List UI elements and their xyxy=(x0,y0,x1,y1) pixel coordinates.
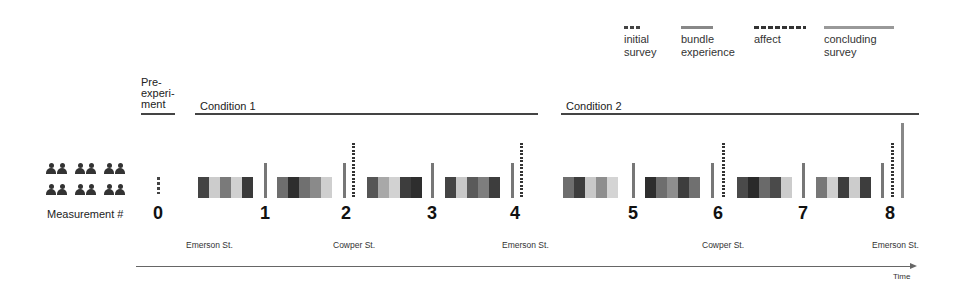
condition-1-line xyxy=(195,113,538,115)
measurement-number: 7 xyxy=(798,203,808,224)
time-arrow-icon xyxy=(910,263,917,269)
bundle-group-3 xyxy=(367,177,422,198)
bundle-experience-swatch xyxy=(681,26,713,29)
bundle-block xyxy=(400,177,411,198)
bundle-block xyxy=(378,177,389,198)
bundle-block xyxy=(827,177,838,198)
street-label: Emerson St. xyxy=(186,240,233,250)
bundle-block xyxy=(748,177,759,198)
bundle-block xyxy=(209,177,220,198)
bundle-group-4 xyxy=(445,177,500,198)
affect-swatch xyxy=(754,26,806,29)
phase-pre-experiment: Pre- experi- ment xyxy=(141,77,175,110)
person-icon xyxy=(46,163,56,174)
measurement-bar xyxy=(431,163,434,198)
bundle-group-5 xyxy=(563,177,618,198)
initial-survey-marker xyxy=(157,177,160,194)
bundle-group-2 xyxy=(277,177,332,198)
affect-bar xyxy=(520,143,523,198)
legend-affect: affect xyxy=(754,26,806,46)
measurement-number: 0 xyxy=(153,203,163,224)
time-label: Time xyxy=(893,272,910,281)
bundle-block xyxy=(689,177,700,198)
bundle-block xyxy=(299,177,310,198)
bundle-block xyxy=(277,177,288,198)
legend-label: survey xyxy=(624,46,656,59)
measurement-bar xyxy=(632,163,635,198)
bundle-block xyxy=(667,177,678,198)
bundle-group-8 xyxy=(816,177,871,198)
bundle-block xyxy=(456,177,467,198)
person-icon xyxy=(86,184,96,195)
bundle-block xyxy=(563,177,574,198)
bundle-block xyxy=(838,177,849,198)
bundle-block xyxy=(310,177,321,198)
legend-label: survey xyxy=(824,46,894,59)
legend-label: experience xyxy=(681,46,735,59)
bundle-block xyxy=(574,177,585,198)
measurement-bar xyxy=(511,163,514,198)
time-axis xyxy=(136,266,912,267)
bundle-block xyxy=(478,177,489,198)
condition-2-line xyxy=(561,113,919,115)
affect-bar xyxy=(891,143,894,198)
concluding-survey-swatch xyxy=(824,26,894,29)
bundle-block xyxy=(656,177,667,198)
concluding-survey-bar xyxy=(901,123,904,198)
pre-experiment-line xyxy=(141,113,175,115)
bundle-block xyxy=(242,177,253,198)
bundle-block xyxy=(759,177,770,198)
person-icon xyxy=(115,184,125,195)
person-icon xyxy=(46,184,56,195)
person-icon xyxy=(75,163,85,174)
measurement-number: 8 xyxy=(885,203,895,224)
bundle-block xyxy=(816,177,827,198)
bundle-block xyxy=(585,177,596,198)
legend-label: bundle xyxy=(681,33,735,46)
street-label: Emerson St. xyxy=(502,240,549,250)
bundle-group-6 xyxy=(645,177,700,198)
bundle-block xyxy=(596,177,607,198)
legend-label: affect xyxy=(754,33,806,46)
bundle-group-7 xyxy=(737,177,792,198)
bundle-block xyxy=(607,177,618,198)
bundle-block xyxy=(489,177,500,198)
bundle-block xyxy=(645,177,656,198)
bundle-block xyxy=(445,177,456,198)
legend-label: concluding xyxy=(824,33,894,46)
bundle-block xyxy=(770,177,781,198)
phase-condition-2: Condition 2 xyxy=(566,101,622,112)
measurement-number: 2 xyxy=(341,203,351,224)
measurement-number: 6 xyxy=(713,203,723,224)
bundle-block xyxy=(781,177,792,198)
bundle-block xyxy=(231,177,242,198)
person-icon xyxy=(57,163,67,174)
bundle-block xyxy=(220,177,231,198)
bundle-block xyxy=(737,177,748,198)
measurement-label: Measurement # xyxy=(47,208,123,220)
person-icon xyxy=(115,163,125,174)
legend-concluding-survey: concluding survey xyxy=(824,26,894,59)
bundle-block xyxy=(389,177,400,198)
person-icon xyxy=(104,184,114,195)
phase-label-line: ment xyxy=(141,99,175,110)
street-label: Emerson St. xyxy=(872,240,919,250)
bundle-block xyxy=(411,177,422,198)
bundle-block xyxy=(288,177,299,198)
measurement-bar xyxy=(264,163,267,198)
person-icon xyxy=(57,184,67,195)
measurement-number: 5 xyxy=(628,203,638,224)
phase-condition-1: Condition 1 xyxy=(200,101,256,112)
bundle-block xyxy=(467,177,478,198)
bundle-block xyxy=(367,177,378,198)
legend-bundle-experience: bundle experience xyxy=(681,26,735,59)
legend-initial-survey: initial survey xyxy=(624,26,656,59)
bundle-block xyxy=(321,177,332,198)
person-icon xyxy=(86,163,96,174)
bundle-block xyxy=(198,177,209,198)
measurement-number: 4 xyxy=(510,203,520,224)
person-icon xyxy=(104,163,114,174)
street-label: Cowper St. xyxy=(702,240,744,250)
measurement-bar xyxy=(711,163,714,198)
bundle-block xyxy=(849,177,860,198)
